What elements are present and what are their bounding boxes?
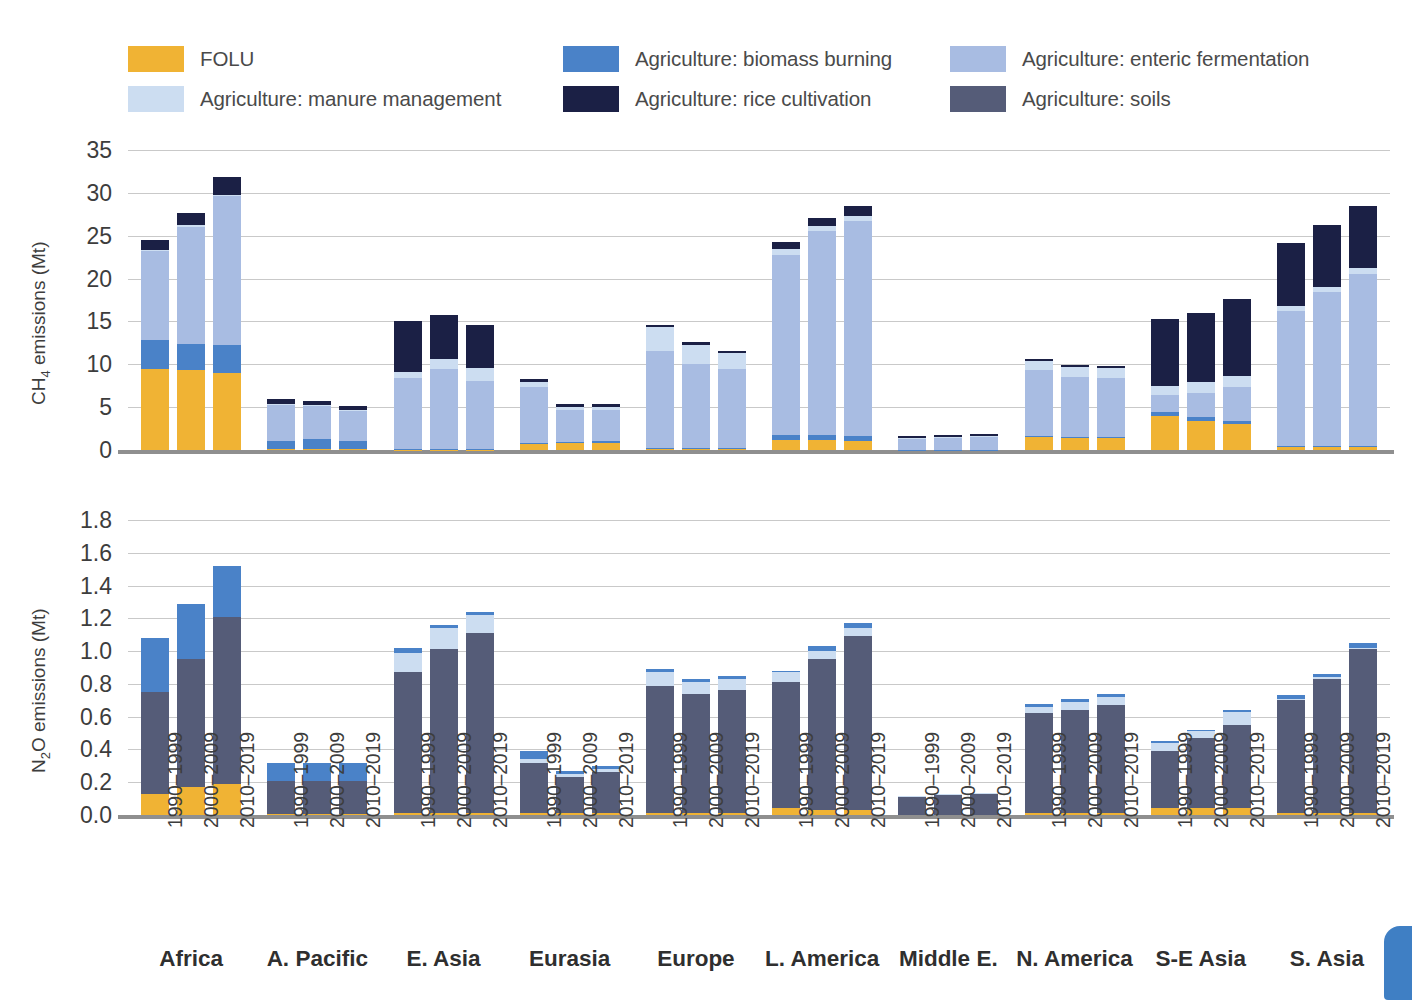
y-axis-tick-label: 1.8 xyxy=(0,507,112,534)
bar-segment-manure xyxy=(394,653,422,673)
bar-segment-rice xyxy=(682,342,710,345)
bar-segment-manure xyxy=(1223,712,1251,725)
bar-segment-manure xyxy=(844,216,872,221)
y-axis-tick-label: 0.6 xyxy=(0,703,112,730)
bar-africa-0 xyxy=(141,150,169,450)
bar-segment-enteric xyxy=(592,410,620,442)
bar-segment-biomass xyxy=(1223,421,1251,424)
bar-segment-biomass xyxy=(808,435,836,440)
bar-segment-enteric xyxy=(682,364,710,448)
y-axis-tick-label: 10 xyxy=(0,351,112,378)
bar-segment-rice xyxy=(808,218,836,227)
bar-segment-enteric xyxy=(556,410,584,443)
y-axis-tick-label: 0.2 xyxy=(0,769,112,796)
x-axis-period-label: 1990–1999 xyxy=(795,732,818,828)
bar-segment-biomass xyxy=(1187,417,1215,420)
bar-segment-enteric xyxy=(1097,378,1125,437)
bar-segment-rice xyxy=(772,242,800,250)
bar-segment-manure xyxy=(1349,268,1377,274)
bar-sasia-2 xyxy=(1349,150,1377,450)
bar-segment-manure xyxy=(772,672,800,682)
bar-segment-biomass xyxy=(718,676,746,679)
bar-segment-manure xyxy=(213,195,241,197)
x-axis-period-label: 1990–1999 xyxy=(543,732,566,828)
bar-segment-biomass xyxy=(1277,446,1305,448)
x-axis-region-label: A. Pacific xyxy=(254,946,380,972)
x-axis-period-label: 2010–2019 xyxy=(236,732,259,828)
bar-segment-enteric xyxy=(934,438,962,450)
x-axis-period-label: 1990–1999 xyxy=(669,732,692,828)
bar-segment-enteric xyxy=(970,437,998,450)
bar-segment-biomass xyxy=(592,441,620,442)
bar-segment-rice xyxy=(303,401,331,404)
bar-segment-biomass xyxy=(844,623,872,628)
x-axis-region-label: N. America xyxy=(1011,946,1137,972)
bar-eurasia-2 xyxy=(592,150,620,450)
x-axis-region-label: Middle E. xyxy=(885,946,1011,972)
bar-segment-manure xyxy=(1061,702,1089,710)
bar-segment-manure xyxy=(1025,361,1053,370)
legend-swatch-biomass-icon xyxy=(563,46,619,72)
bar-segment-rice xyxy=(177,213,205,226)
bar-segment-biomass xyxy=(466,449,494,450)
bar-segment-rice xyxy=(1277,243,1305,306)
legend-item-soils: Agriculture: soils xyxy=(950,86,1171,112)
bar-lamerica-2 xyxy=(844,150,872,450)
legend-swatch-rice-icon xyxy=(563,86,619,112)
bar-segment-manure xyxy=(592,407,620,410)
legend-item-manure: Agriculture: manure management xyxy=(128,86,501,112)
bar-segment-rice xyxy=(466,325,494,368)
bar-segment-biomass xyxy=(394,449,422,450)
bar-segment-folu xyxy=(1313,447,1341,450)
bar-segment-rice xyxy=(394,321,422,372)
bar-segment-folu xyxy=(592,442,620,450)
bar-segment-enteric xyxy=(898,438,926,449)
bar-segment-manure xyxy=(682,682,710,693)
x-axis-region-label: L. America xyxy=(759,946,885,972)
x-axis-period-label: 1990–1999 xyxy=(290,732,313,828)
bar-segment-enteric xyxy=(394,378,422,448)
bar-segment-rice xyxy=(339,406,367,409)
bar-segment-biomass xyxy=(646,448,674,449)
bar-segment-biomass xyxy=(682,448,710,449)
bar-segment-folu xyxy=(520,444,548,450)
bar-easia-0 xyxy=(394,150,422,450)
bar-apacific-0 xyxy=(267,150,295,450)
bar-segment-rice xyxy=(430,315,458,359)
bar-segment-enteric xyxy=(1349,274,1377,445)
bar-segment-biomass xyxy=(1061,437,1089,438)
bar-namerica-1 xyxy=(1061,150,1089,450)
legend-item-folu: FOLU xyxy=(128,46,254,72)
x-axis-period-label: 2010–2019 xyxy=(489,732,512,828)
x-axis-period-label: 2010–2019 xyxy=(1120,732,1143,828)
y-axis-tick-label: 0.8 xyxy=(0,670,112,697)
x-axis-period-label: 2000–2009 xyxy=(705,732,728,828)
bar-segment-manure xyxy=(682,345,710,365)
x-axis-region-label: S. Asia xyxy=(1264,946,1390,972)
bar-segment-enteric xyxy=(520,387,548,444)
bar-segment-manure xyxy=(1097,697,1125,705)
bar-segment-rice xyxy=(718,351,746,354)
x-axis-period-label: 1990–1999 xyxy=(164,732,187,828)
bar-segment-biomass xyxy=(430,449,458,450)
bar-segment-biomass xyxy=(394,648,422,653)
bar-europe-1 xyxy=(682,150,710,450)
legend-label-soils: Agriculture: soils xyxy=(1022,87,1171,111)
bar-segment-rice xyxy=(1151,319,1179,386)
bar-segment-enteric xyxy=(466,381,494,449)
bar-europe-2 xyxy=(718,150,746,450)
bar-namerica-0 xyxy=(1025,150,1053,450)
bar-segment-manure xyxy=(466,368,494,381)
bar-segment-folu xyxy=(141,369,169,450)
bar-segment-rice xyxy=(1313,225,1341,287)
bar-segment-folu xyxy=(1097,438,1125,450)
bar-segment-rice xyxy=(1349,206,1377,269)
bar-segment-enteric xyxy=(1187,393,1215,418)
bar-sasia-0 xyxy=(1277,150,1305,450)
bar-segment-biomass xyxy=(1097,437,1125,438)
bar-middlee-2 xyxy=(970,150,998,450)
bar-segment-enteric xyxy=(844,221,872,436)
bar-segment-enteric xyxy=(1151,395,1179,412)
bar-segment-enteric xyxy=(1025,370,1053,436)
bar-segment-folu xyxy=(267,449,295,450)
